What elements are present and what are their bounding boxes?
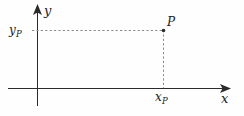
point-p-marker bbox=[162, 29, 166, 33]
y-coordinate-subscript: P bbox=[16, 29, 22, 39]
x-coordinate-base: x bbox=[155, 90, 162, 104]
point-p-x-coordinate-label: xP bbox=[155, 91, 168, 103]
coordinate-plane-figure: y x yP xP P bbox=[0, 0, 244, 116]
point-p-y-coordinate-label: yP bbox=[9, 24, 22, 36]
point-p-label: P bbox=[167, 16, 175, 28]
x-axis-label: x bbox=[221, 92, 228, 105]
y-coordinate-base: y bbox=[9, 23, 16, 37]
figure-canvas bbox=[0, 0, 244, 116]
y-axis-label: y bbox=[44, 4, 51, 17]
x-coordinate-subscript: P bbox=[162, 96, 168, 106]
